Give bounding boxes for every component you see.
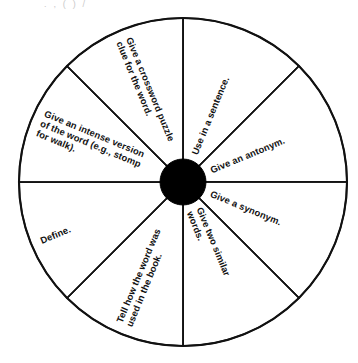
- word-wheel-diagram: Use in a sentence.Give an antonym.Give a…: [0, 0, 358, 363]
- wheel-stage: Use in a sentence.Give an antonym.Give a…: [0, 0, 358, 363]
- wheel-hub-center: [160, 159, 206, 205]
